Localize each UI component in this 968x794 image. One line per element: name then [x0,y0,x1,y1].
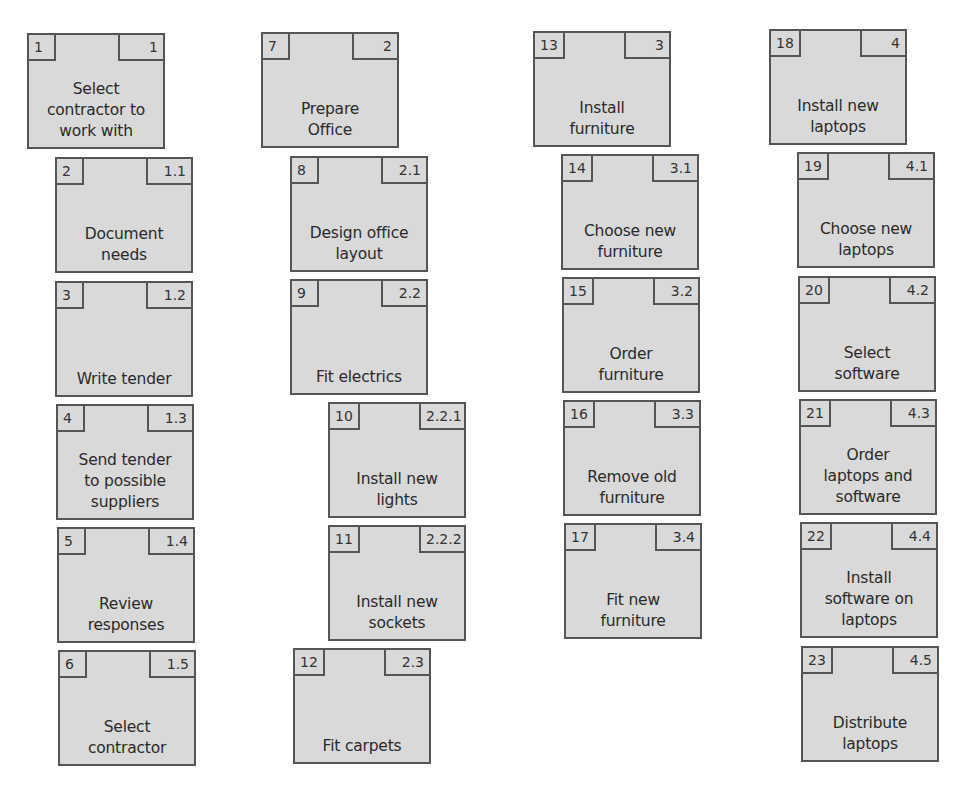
task-label: Select contractor to work with [33,79,159,142]
task-label: Design office layout [296,223,422,265]
task-label: Distribute laptops [807,713,933,755]
task-label: Send tender to possible suppliers [62,450,188,513]
task-id-tag: 17 [564,523,596,551]
task-id-tag: 19 [797,152,829,180]
task-box[interactable]: 2 1.1 Document needs [55,157,193,273]
wbs-code-tag: 3.4 [655,523,702,551]
task-box[interactable]: 15 3.2 Order furniture [562,277,700,393]
task-box[interactable]: 10 2.2.1 Install new lights [328,402,466,518]
task-label: Fit carpets [299,736,425,757]
task-id-tag: 13 [533,31,565,59]
wbs-code-tag: 2.2.2 [419,525,466,553]
task-id-tag: 5 [57,527,86,555]
wbs-code-tag: 4.2 [889,276,936,304]
wbs-code-tag: 4.5 [892,646,939,674]
wbs-code-tag: 2.3 [384,648,431,676]
task-label: Fit new furniture [570,590,696,632]
task-id-tag: 15 [562,277,594,305]
task-label: Document needs [61,224,187,266]
task-box[interactable]: 23 4.5 Distribute laptops [801,646,939,762]
task-label: Install new lights [334,469,460,511]
task-box[interactable]: 5 1.4 Review responses [57,527,195,643]
task-box[interactable]: 13 3 Install furniture [533,31,671,147]
task-box[interactable]: 7 2 Prepare Office [261,32,399,148]
task-box[interactable]: 12 2.3 Fit carpets [293,648,431,764]
wbs-code-tag: 1 [118,33,165,61]
task-id-tag: 7 [261,32,290,60]
task-label: Select software [804,343,930,385]
task-id-tag: 2 [55,157,84,185]
wbs-code-tag: 2.2.1 [419,402,466,430]
task-label: Write tender [61,369,187,390]
task-id-tag: 12 [293,648,325,676]
task-label: Install furniture [539,98,665,140]
task-id-tag: 16 [563,400,595,428]
wbs-code-tag: 2.2 [381,279,428,307]
task-box[interactable]: 9 2.2 Fit electrics [290,279,428,395]
task-box[interactable]: 18 4 Install new laptops [769,29,907,145]
task-id-tag: 9 [290,279,319,307]
task-id-tag: 18 [769,29,801,57]
task-box[interactable]: 8 2.1 Design office layout [290,156,428,272]
task-label: Order furniture [568,344,694,386]
wbs-code-tag: 3.2 [653,277,700,305]
task-box[interactable]: 3 1.2 Write tender [55,281,193,397]
task-id-tag: 4 [56,404,85,432]
task-label: Select contractor [64,717,190,759]
wbs-code-tag: 1.2 [146,281,193,309]
task-id-tag: 3 [55,281,84,309]
task-id-tag: 1 [27,33,56,61]
task-id-tag: 11 [328,525,360,553]
wbs-code-tag: 1.3 [147,404,194,432]
task-box[interactable]: 20 4.2 Select software [798,276,936,392]
wbs-code-tag: 4 [860,29,907,57]
task-label: Fit electrics [296,367,422,388]
task-box[interactable]: 1 1 Select contractor to work with [27,33,165,149]
task-box[interactable]: 4 1.3 Send tender to possible suppliers [56,404,194,520]
task-id-tag: 14 [561,154,593,182]
wbs-code-tag: 2.1 [381,156,428,184]
task-label: Install software on laptops [806,568,932,631]
task-box[interactable]: 21 4.3 Order laptops and software [799,399,937,515]
task-id-tag: 22 [800,522,832,550]
task-box[interactable]: 16 3.3 Remove old furniture [563,400,701,516]
wbs-code-tag: 4.3 [890,399,937,427]
task-id-tag: 20 [798,276,830,304]
task-box[interactable]: 11 2.2.2 Install new sockets [328,525,466,641]
task-id-tag: 21 [799,399,831,427]
wbs-code-tag: 3 [624,31,671,59]
task-label: Review responses [63,594,189,636]
wbs-code-tag: 2 [352,32,399,60]
task-label: Choose new furniture [567,221,693,263]
task-box[interactable]: 22 4.4 Install software on laptops [800,522,938,638]
wbs-code-tag: 1.4 [148,527,195,555]
task-id-tag: 6 [58,650,87,678]
task-id-tag: 10 [328,402,360,430]
wbs-code-tag: 3.3 [654,400,701,428]
task-box[interactable]: 17 3.4 Fit new furniture [564,523,702,639]
wbs-code-tag: 3.1 [652,154,699,182]
task-label: Remove old furniture [569,467,695,509]
task-label: Order laptops and software [805,445,931,508]
task-box[interactable]: 14 3.1 Choose new furniture [561,154,699,270]
wbs-code-tag: 1.1 [146,157,193,185]
task-box[interactable]: 6 1.5 Select contractor [58,650,196,766]
wbs-code-tag: 1.5 [149,650,196,678]
task-label: Install new laptops [775,96,901,138]
wbs-code-tag: 4.1 [888,152,935,180]
task-label: Choose new laptops [803,219,929,261]
task-label: Prepare Office [267,99,393,141]
task-box[interactable]: 19 4.1 Choose new laptops [797,152,935,268]
task-id-tag: 23 [801,646,833,674]
task-id-tag: 8 [290,156,319,184]
wbs-code-tag: 4.4 [891,522,938,550]
task-label: Install new sockets [334,592,460,634]
wbs-diagram: 1 1 Select contractor to work with 2 1.1… [0,0,968,794]
